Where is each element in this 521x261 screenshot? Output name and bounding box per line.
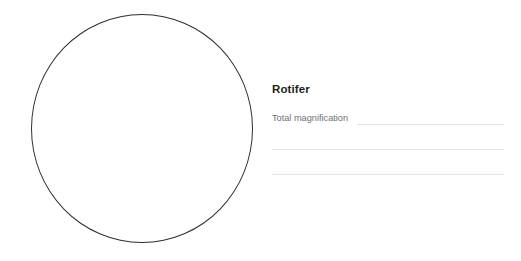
microscope-drawing-worksheet: Rotifer Total magnification xyxy=(0,0,521,261)
field-row-blank-3 xyxy=(272,162,504,176)
field-row-blank-2 xyxy=(272,137,504,151)
specimen-answer-panel: Rotifer Total magnification xyxy=(272,82,504,182)
answer-line-2[interactable] xyxy=(272,149,504,150)
answer-line-3[interactable] xyxy=(272,174,504,175)
field-label-total-magnification: Total magnification xyxy=(272,112,348,124)
microscope-field-of-view-circle[interactable] xyxy=(31,14,253,243)
answer-line-1[interactable] xyxy=(357,124,504,125)
field-row-total-magnification: Total magnification xyxy=(272,112,504,126)
specimen-title: Rotifer xyxy=(272,82,310,96)
